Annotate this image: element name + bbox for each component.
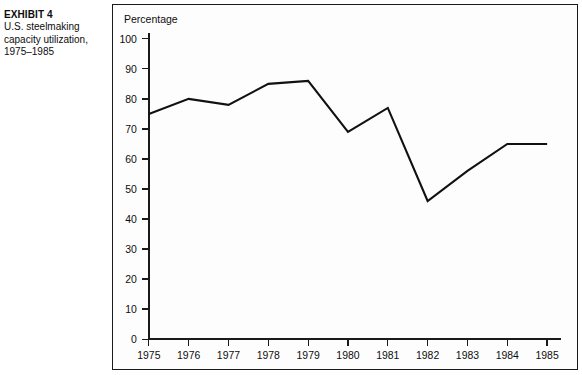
x-tick-label: 1979 [297, 350, 320, 361]
y-tick-label: 80 [125, 94, 137, 105]
y-tick-label: 90 [125, 64, 137, 75]
x-tick-label: 1981 [376, 350, 399, 361]
chart-svg: 0102030405060708090100 19751976197719781… [113, 5, 577, 369]
y-tick-label: 40 [125, 214, 137, 225]
capacity-utilization-line [149, 81, 547, 201]
x-tick-label: 1983 [456, 350, 479, 361]
y-tick-label: 100 [119, 34, 137, 45]
x-tick-label: 1976 [177, 350, 200, 361]
y-tick-label: 30 [125, 244, 137, 255]
x-axis-ticks [149, 339, 547, 346]
x-tick-label: 1978 [257, 350, 280, 361]
x-tick-label: 1982 [416, 350, 439, 361]
x-tick-label: 1977 [217, 350, 240, 361]
x-tick-label: 1984 [496, 350, 519, 361]
y-tick-label: 60 [125, 154, 137, 165]
x-tick-label: 1985 [536, 350, 559, 361]
exhibit-description: U.S. steelmaking capacity utilization, 1… [4, 21, 104, 58]
chart-frame: Percentage 0102030405060708090100 197519… [112, 4, 578, 370]
y-axis-tick-labels: 0102030405060708090100 [119, 34, 137, 345]
exhibit-caption: EXHIBIT 4 U.S. steelmaking capacity util… [4, 9, 104, 59]
y-tick-label: 20 [125, 274, 137, 285]
y-tick-label: 0 [131, 334, 137, 345]
x-tick-label: 1980 [336, 350, 359, 361]
y-tick-label: 50 [125, 184, 137, 195]
y-axis-ticks [142, 39, 149, 339]
y-tick-label: 10 [125, 304, 137, 315]
y-tick-label: 70 [125, 124, 137, 135]
line-chart-plot: 0102030405060708090100 19751976197719781… [113, 5, 577, 369]
x-axis-tick-labels: 1975197619771978197919801981198219831984… [137, 350, 559, 361]
axes [149, 33, 561, 339]
x-tick-label: 1975 [137, 350, 160, 361]
exhibit-label: EXHIBIT 4 [4, 9, 104, 21]
